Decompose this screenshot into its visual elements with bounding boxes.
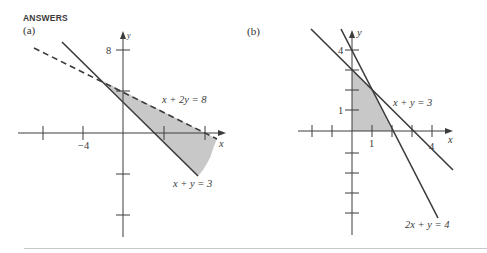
equation-x-plus-2y-eq-8: x + 2y = 8 (161, 94, 207, 105)
feasible-region-b (352, 70, 392, 131)
section-divider (24, 248, 487, 249)
x-axis-label-a: x (218, 138, 224, 149)
x-axis-label-b: x (447, 134, 453, 145)
tick-label-8: 8 (106, 45, 111, 56)
solid-line-x-plus-y-eq-3-a (62, 42, 198, 176)
equation-2x-plus-y-eq-4: 2x + y = 4 (405, 219, 450, 230)
equation-x-plus-y-eq-3-b: x + y = 3 (392, 97, 432, 108)
y-axis-arrow-a (120, 31, 126, 39)
tick-label-x4: 4 (429, 141, 435, 152)
equation-x-plus-y-eq-3-a: x + y = 3 (172, 178, 212, 189)
y-axis-label-a: y (126, 31, 131, 40)
y-axis-arrow-b (349, 30, 355, 38)
tick-label-x1: 1 (369, 138, 374, 149)
x-axis-arrow-a (218, 130, 226, 136)
tick-label-y1: 1 (338, 105, 343, 116)
y-axis-label-b: y (356, 27, 362, 38)
tick-label-neg4: −4 (78, 140, 90, 151)
tick-label-y4: 4 (338, 45, 344, 56)
graph-a: −4 8 y x x + 2y = 8 x + y = 3 (18, 31, 226, 237)
graph-b: 4 1 1 4 y x x + y = 3 2x + y = 4 (298, 27, 453, 235)
graphs: −4 8 y x x + 2y = 8 x + y = 3 (0, 0, 487, 253)
